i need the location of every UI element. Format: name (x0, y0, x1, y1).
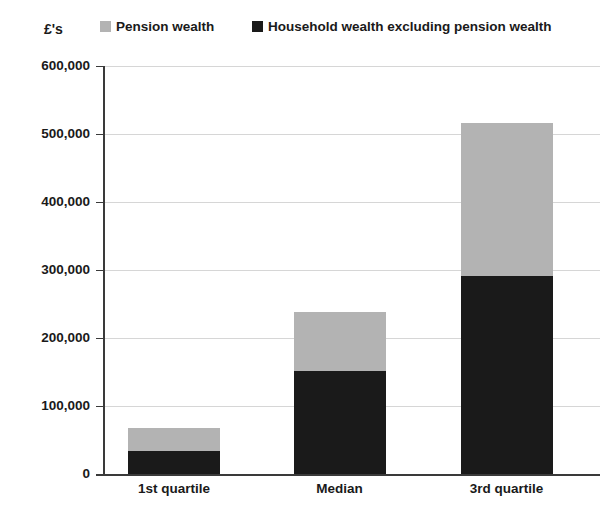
y-axis-tick-mark (96, 202, 104, 203)
x-axis-tick-label: 1st quartile (94, 482, 254, 496)
y-axis-tick-mark (96, 338, 104, 339)
x-axis-line (96, 474, 600, 476)
y-axis-tick-label: 400,000 (4, 195, 90, 209)
bar-segment-household-wealth[interactable] (294, 371, 386, 474)
y-axis-tick-mark (96, 134, 104, 135)
y-axis-tick-label: 0 (4, 467, 90, 481)
y-axis-tick-label: 600,000 (4, 59, 90, 73)
bar-segment-household-wealth[interactable] (128, 451, 220, 474)
y-axis-tick-mark (96, 66, 104, 67)
y-axis-tick-label: 100,000 (4, 399, 90, 413)
bar-segment-pension-wealth[interactable] (128, 428, 220, 451)
bar-segment-household-wealth[interactable] (461, 276, 553, 474)
stacked-bar-chart: £'s Pension wealth Household wealth excl… (0, 0, 612, 520)
bar-group[interactable] (128, 66, 220, 474)
bar-segment-pension-wealth[interactable] (461, 123, 553, 276)
y-axis-tick-mark (96, 406, 104, 407)
bar-group[interactable] (294, 66, 386, 474)
bar-segment-pension-wealth[interactable] (294, 312, 386, 370)
x-axis-tick-label: Median (260, 482, 420, 496)
bar-group[interactable] (461, 66, 553, 474)
y-axis-tick-label: 200,000 (4, 331, 90, 345)
plot-area (104, 66, 600, 474)
y-axis-tick-mark (96, 270, 104, 271)
y-axis-tick-label: 300,000 (4, 263, 90, 277)
plot-wrapper: 0100,000200,000300,000400,000500,000600,… (0, 0, 612, 520)
y-axis-tick-mark (96, 474, 104, 475)
x-axis-tick-label: 3rd quartile (427, 482, 587, 496)
y-axis-tick-label: 500,000 (4, 127, 90, 141)
